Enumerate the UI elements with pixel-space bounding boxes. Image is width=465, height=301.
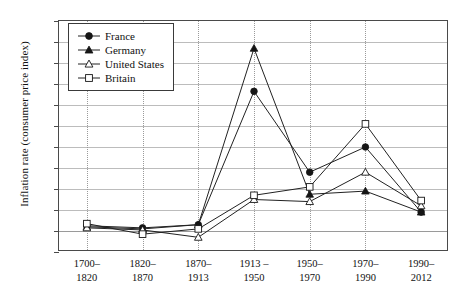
y-axis-title: Inflation rate (consumer price index) — [18, 4, 30, 244]
data-point-filled-circle — [306, 169, 313, 176]
legend-item-britain[interactable]: Britain — [76, 71, 164, 85]
legend-item-germany[interactable]: Germany — [76, 43, 164, 57]
series-line — [87, 91, 421, 228]
data-point-filled-circle — [86, 33, 93, 40]
data-point-open-square — [139, 231, 146, 238]
data-point-open-square — [362, 121, 369, 128]
data-point-filled-circle — [362, 144, 369, 151]
legend-item-united-states[interactable]: United States — [76, 57, 164, 71]
legend-label: Germany — [102, 44, 146, 56]
series-line — [87, 124, 421, 234]
data-point-filled-triangle — [362, 187, 370, 194]
x-tick-label-bottom: 2012 — [386, 271, 456, 285]
data-point-open-square — [84, 220, 91, 227]
chart-legend: FranceGermanyUnited StatesBritain — [68, 23, 174, 91]
series-britain — [84, 121, 425, 238]
x-tick-label: 1990–2012 — [386, 257, 456, 284]
legend-marker-icon — [76, 71, 102, 85]
series-united-states — [83, 168, 425, 240]
chart-container: Inflation rate (consumer price index) 20… — [0, 0, 465, 301]
legend-item-france[interactable]: France — [76, 29, 164, 43]
data-point-filled-circle — [251, 88, 258, 95]
data-point-filled-triangle — [250, 45, 258, 52]
series-france — [84, 88, 425, 231]
data-point-open-square — [86, 75, 93, 82]
data-point-open-triangle — [362, 168, 370, 175]
data-point-open-square — [306, 184, 313, 191]
legend-label: France — [102, 30, 135, 42]
legend-marker-icon — [76, 29, 102, 43]
y-tick-mark — [54, 252, 59, 253]
legend-label: Britain — [102, 72, 136, 84]
data-point-open-square — [195, 226, 202, 233]
data-point-open-square — [251, 192, 258, 199]
legend-marker-icon — [76, 43, 102, 57]
x-tick-label-top: 1990– — [386, 257, 456, 271]
legend-marker-icon — [76, 57, 102, 71]
legend-label: United States — [102, 58, 164, 70]
data-point-open-square — [418, 197, 425, 204]
